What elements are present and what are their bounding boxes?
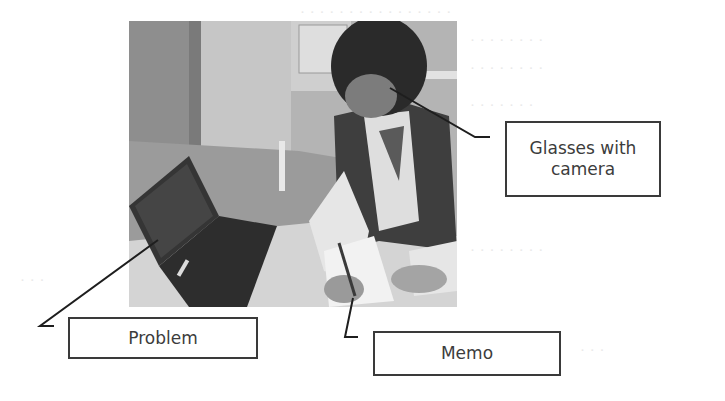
memo-label-text: Memo — [441, 343, 493, 364]
problem-label: Problem — [68, 317, 258, 359]
glasses-callout-line — [390, 88, 490, 137]
memo-label: Memo — [373, 331, 561, 376]
problem-callout-line — [40, 240, 158, 326]
glasses-with-camera-label: Glasses with camera — [505, 121, 661, 197]
glasses-label-text: Glasses with camera — [523, 138, 643, 180]
problem-label-text: Problem — [128, 328, 198, 349]
memo-callout-line — [345, 298, 358, 337]
